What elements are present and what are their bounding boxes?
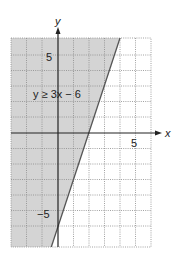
x-axis-arrow-icon — [155, 131, 162, 136]
y-tick-label-neg5: −5 — [37, 208, 50, 220]
shaded-region — [11, 38, 120, 247]
inequality-graph: y x 5 −5 5 y ≥ 3x − 6 — [0, 0, 180, 260]
y-axis-arrow-icon — [56, 27, 61, 34]
y-axis-label: y — [54, 15, 62, 27]
x-axis-label: x — [164, 127, 171, 139]
inequality-label: y ≥ 3x − 6 — [33, 88, 81, 100]
x-tick-label-5: 5 — [131, 137, 137, 149]
y-tick-label-5: 5 — [46, 51, 52, 63]
